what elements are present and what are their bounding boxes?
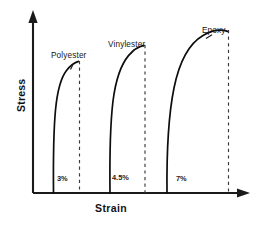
y-axis-arrow-icon xyxy=(28,10,37,23)
x-axis-arrow-icon xyxy=(237,188,250,197)
failure-strain-label-vinylester: 4.5% xyxy=(112,174,129,181)
series-label-polyester: Polyester xyxy=(51,52,86,60)
failure-strain-label-polyester: 3% xyxy=(57,175,68,182)
stress-strain-chart: Polyester Vinylester Epoxy 3% 4.5% 7% St… xyxy=(0,0,260,227)
series-label-epoxy: Epoxy xyxy=(202,27,226,35)
series-label-vinylester: Vinylester xyxy=(108,41,145,49)
curve-vinylester xyxy=(110,45,144,193)
failure-strain-label-epoxy: 7% xyxy=(176,175,187,182)
x-axis-label: Strain xyxy=(95,203,127,214)
leader-epoxy xyxy=(206,35,212,39)
y-axis-label: Stress xyxy=(16,65,27,125)
curve-epoxy xyxy=(167,30,228,193)
